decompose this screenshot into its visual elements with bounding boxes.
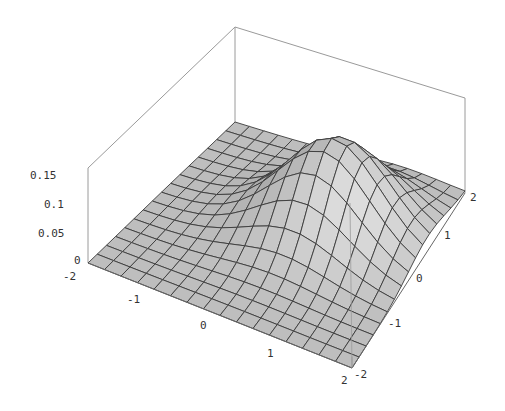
z-tick-0.05: 0.05 xyxy=(38,227,65,240)
surface-mesh xyxy=(88,122,465,368)
x-tick-0: 0 xyxy=(200,319,207,332)
y-tick-neg2: -2 xyxy=(354,368,367,381)
x-tick-2: 2 xyxy=(341,374,348,387)
x-tick-neg1: -1 xyxy=(127,293,140,306)
y-tick-neg1: -1 xyxy=(388,317,401,330)
y-tick-1: 1 xyxy=(444,229,451,242)
x-tick-1: 1 xyxy=(267,347,274,360)
surface-plot: 0.15 0.1 0.05 0 -2 -1 0 1 2 -2 -1 0 1 2 xyxy=(0,0,505,411)
z-tick-0.1: 0.1 xyxy=(44,198,64,211)
z-tick-0: 0 xyxy=(74,254,81,267)
y-tick-0: 0 xyxy=(416,272,423,285)
x-tick-neg2: -2 xyxy=(63,270,76,283)
y-tick-2: 2 xyxy=(470,191,477,204)
z-tick-0.15: 0.15 xyxy=(30,169,57,182)
